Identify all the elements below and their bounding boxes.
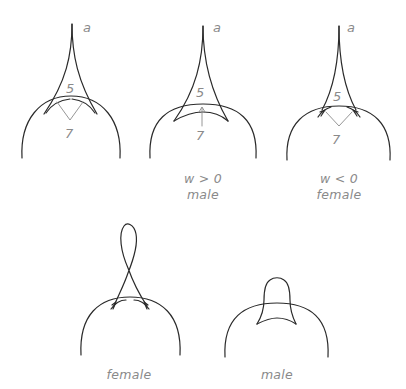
v-construction-line bbox=[326, 112, 352, 126]
caption-sex: male bbox=[187, 187, 219, 202]
label-5: 5 bbox=[66, 81, 74, 96]
cusp-spire bbox=[339, 26, 356, 110]
inner-concave-arc bbox=[257, 318, 296, 324]
cusp-junction-left bbox=[112, 302, 116, 309]
label-a: a bbox=[347, 20, 355, 35]
figure-5: male bbox=[225, 278, 328, 382]
label-5: 5 bbox=[196, 85, 204, 100]
outer-arc bbox=[225, 303, 328, 357]
caption-condition: w > 0 bbox=[184, 171, 222, 186]
cusp-junction-right bbox=[144, 302, 148, 309]
outer-arc bbox=[81, 297, 180, 355]
label-a: a bbox=[83, 20, 91, 35]
label-5: 5 bbox=[333, 89, 341, 104]
diagram-canvas: a 5 7 a 5 7 w > 0 male a 5 7 w < 0 femal… bbox=[0, 0, 406, 389]
label-a: a bbox=[213, 20, 221, 35]
label-7: 7 bbox=[65, 126, 74, 141]
caption-condition: w < 0 bbox=[320, 171, 358, 186]
label-7: 7 bbox=[196, 128, 205, 143]
cusp-junction-right bbox=[72, 99, 95, 113]
cusp-spire bbox=[174, 26, 203, 121]
figure-2: a 5 7 w > 0 male bbox=[150, 20, 256, 202]
inner-concave-arc bbox=[174, 112, 228, 121]
figure-1: a 5 7 bbox=[22, 20, 120, 158]
caption-sex: female bbox=[107, 367, 152, 382]
bulb-curve bbox=[257, 278, 296, 324]
caption-sex: male bbox=[261, 367, 293, 382]
figure-4: female bbox=[81, 224, 180, 382]
v-construction-line bbox=[57, 102, 83, 120]
figure-3: a 5 7 w < 0 female bbox=[287, 20, 390, 202]
caption-sex: female bbox=[317, 187, 362, 202]
loop-curve bbox=[114, 224, 147, 306]
label-7: 7 bbox=[332, 132, 341, 147]
